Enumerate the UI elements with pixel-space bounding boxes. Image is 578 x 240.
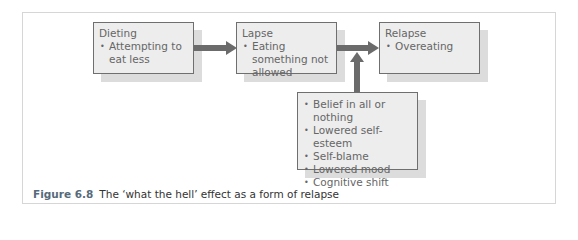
figure-label: Figure 6.8 (33, 188, 93, 200)
lapse-title: Lapse (242, 27, 331, 40)
relapse-item: Overeating (385, 40, 474, 53)
factor-item: Belief in all or nothing (303, 98, 412, 124)
dieting-item: Attempting to eat less (99, 40, 188, 66)
relapse-title: Relapse (385, 27, 474, 40)
factor-item: Self-blame (303, 150, 412, 163)
factor-item: Lowered mood (303, 163, 412, 176)
lapse-box: Lapse Eating something not allowed (236, 22, 337, 74)
figure-caption: Figure 6.8The ‘what the hell’ effect as … (33, 188, 339, 200)
relapse-box: Relapse Overeating (379, 22, 480, 74)
factor-item: Lowered self-esteem (303, 124, 412, 150)
factors-box: Belief in all or nothing Lowered self-es… (297, 92, 418, 170)
lapse-item: Eating something not allowed (242, 40, 331, 79)
dieting-title: Dieting (99, 27, 188, 40)
dieting-box: Dieting Attempting to eat less (93, 22, 194, 74)
figure-caption-text: The ‘what the hell’ effect as a form of … (99, 188, 339, 200)
arrow-dieting-to-lapse (193, 41, 238, 55)
arrow-factors-to-edge (350, 52, 364, 94)
